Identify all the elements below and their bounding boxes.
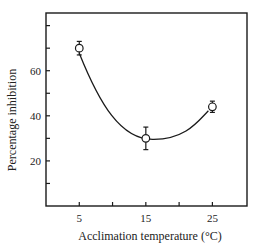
open-circle-marker xyxy=(142,135,150,143)
y-tick-label: 20 xyxy=(30,155,42,167)
chart: 51525 204060 Acclimation temperature (°C… xyxy=(0,0,259,250)
y-axis-title: Percentage inhibition xyxy=(5,69,19,171)
data-points xyxy=(75,41,216,149)
plot-border xyxy=(46,13,247,206)
data-point xyxy=(75,41,83,55)
x-tick-label: 15 xyxy=(140,212,152,224)
open-circle-marker xyxy=(75,44,83,52)
data-point xyxy=(209,101,217,112)
x-axis-title: Acclimation temperature (°C) xyxy=(78,229,221,243)
y-axis: 204060 xyxy=(30,26,50,184)
plot-frame xyxy=(46,13,247,206)
data-point xyxy=(142,127,150,150)
x-tick-label: 25 xyxy=(207,212,219,224)
open-circle-marker xyxy=(209,103,217,111)
x-tick-label: 5 xyxy=(77,212,83,224)
y-tick-label: 60 xyxy=(30,65,42,77)
y-tick-label: 40 xyxy=(30,110,42,122)
fit-curve xyxy=(79,53,208,139)
